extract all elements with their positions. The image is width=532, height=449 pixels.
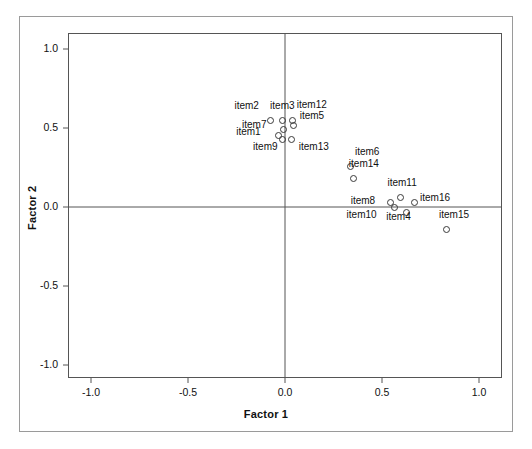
data-point-label: item7: [242, 119, 266, 130]
x-axis-title: Factor 1: [0, 408, 532, 420]
data-point-label: item15: [439, 209, 469, 220]
data-point-marker: [411, 199, 418, 206]
data-point-label: item2: [234, 100, 258, 111]
data-point-label: item10: [347, 209, 377, 220]
scatter-plot: 1.00.50.0-0.5-1.0 -1.0-0.50.00.51.0 item…: [0, 0, 532, 449]
x-tick-label: 1.0: [457, 386, 501, 398]
y-tick-label: 0.5: [18, 121, 58, 133]
y-axis-title: Factor 2: [26, 186, 38, 230]
data-point-label: item3: [270, 100, 294, 111]
y-tick-label: 0.0: [18, 200, 58, 212]
data-point-label: item14: [349, 158, 379, 169]
data-point-marker: [279, 117, 286, 124]
y-tick-label: -1.0: [18, 358, 58, 370]
x-tick-label: -0.5: [166, 386, 210, 398]
data-point-marker: [391, 204, 398, 211]
x-tick-label: 0.0: [263, 386, 307, 398]
data-point-marker: [279, 136, 286, 143]
data-point-label: item12: [297, 99, 327, 110]
data-point-marker: [280, 126, 287, 133]
y-tick-label: 1.0: [18, 42, 58, 54]
data-point-label: item8: [351, 195, 375, 206]
data-point-label: item5: [300, 110, 324, 121]
x-tick-label: 0.5: [360, 386, 404, 398]
data-point-label: item4: [386, 211, 410, 222]
data-point-label: item16: [420, 192, 450, 203]
x-tick-label: -1.0: [69, 386, 113, 398]
data-point-label: item9: [253, 141, 277, 152]
plot-frame: [68, 33, 502, 378]
y-tick-label: -0.5: [18, 279, 58, 291]
data-point-label: item11: [387, 177, 416, 188]
data-point-label: item6: [355, 146, 379, 157]
data-point-marker: [397, 194, 404, 201]
data-point-label: item13: [299, 141, 329, 152]
